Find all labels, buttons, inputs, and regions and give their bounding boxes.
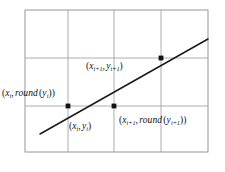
label-var-x: x bbox=[5, 88, 9, 98]
label-var-y: y bbox=[106, 61, 110, 71]
label-var-x: x bbox=[72, 121, 76, 131]
label-sub-i-plus-1-2: i+1 bbox=[111, 65, 120, 72]
point-xi1-yi1 bbox=[159, 56, 164, 61]
label-close-paren: ) bbox=[52, 88, 55, 98]
grid-group bbox=[25, 10, 208, 152]
label-close-paren: ) bbox=[183, 115, 186, 125]
label-xi-round-yi: (xi,round(yi)) bbox=[2, 89, 55, 99]
figure-canvas bbox=[0, 0, 225, 172]
point-xi-round-yi bbox=[66, 104, 71, 109]
label-xi1-round-yi1: (xi+1,round(yi+1)) bbox=[119, 116, 186, 126]
label-xi-yi: (xi,yi) bbox=[69, 122, 91, 132]
label-sub-i-plus-1-2: i+1 bbox=[171, 119, 180, 126]
label-var-y: y bbox=[42, 88, 46, 98]
label-round-func: round bbox=[15, 88, 38, 98]
label-var-x: x bbox=[89, 61, 93, 71]
label-sub-i-plus-1: i+1 bbox=[127, 119, 136, 126]
grid-border bbox=[25, 10, 208, 152]
label-close-paren: ) bbox=[120, 61, 123, 71]
line-rasterization-figure: (xi,round(yi)) (xi+1,yi+1) (xi,yi) (xi+1… bbox=[0, 0, 225, 172]
label-var-x: x bbox=[122, 115, 126, 125]
label-xi1-yi1: (xi+1,yi+1) bbox=[86, 62, 123, 72]
label-sub-i-2: i bbox=[86, 125, 88, 132]
label-sub-i-plus-1: i+1 bbox=[94, 65, 103, 72]
label-comma: , bbox=[11, 88, 13, 98]
label-round-func: round bbox=[139, 115, 162, 125]
label-comma: , bbox=[78, 121, 80, 131]
label-close-paren: ) bbox=[88, 121, 91, 131]
point-xi1-round-yi1 bbox=[112, 104, 117, 109]
